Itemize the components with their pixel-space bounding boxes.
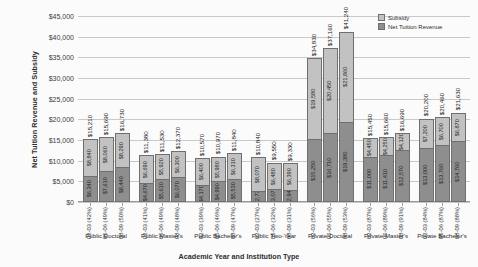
bar-stack[interactable]: $10,840$8,070$2,770 [251, 157, 266, 202]
bar-segment-net-tuition[interactable]: $2,940 [283, 190, 298, 202]
bar-total-label: $11,840 [231, 129, 237, 151]
bar-segment-subsidy[interactable]: $6,690 [139, 155, 154, 183]
bar-segment-subsidy[interactable]: $6,480 [267, 163, 282, 190]
bar-segment-subsidy[interactable]: $6,870 [451, 113, 466, 141]
bar-segment-net-tuition[interactable]: $2,770 [251, 191, 266, 202]
stacked-bar[interactable]: $15,690$8,060$7,610 [99, 16, 114, 202]
bar-stack[interactable]: $10,970$5,980$4,990 [211, 157, 226, 202]
bar-segment-net-tuition[interactable]: $4,990 [211, 181, 226, 202]
bar-total-label: $20,460 [439, 93, 445, 115]
bar-stack[interactable]: $20,200$7,200$13,000 [419, 119, 434, 202]
bar-segment-net-tuition[interactable]: $4,670 [139, 183, 154, 202]
bar-stack[interactable]: $10,570$6,400$4,170 [195, 158, 210, 202]
stacked-bar[interactable]: $21,630$6,870$14,760 [451, 16, 466, 202]
stacked-bar[interactable]: $34,830$19,580$15,250 [307, 16, 322, 202]
bar-segment-subsidy[interactable]: $8,060 [99, 137, 114, 170]
bar-stack[interactable]: $11,530$5,920$5,610 [155, 154, 170, 202]
bar-segment-net-tuition[interactable]: $6,070 [171, 177, 186, 202]
bar-segment-subsidy[interactable]: $5,920 [155, 154, 170, 178]
y-axis-tick-label: $10,000 [49, 157, 74, 164]
net-tuition-value-label: $13,000 [423, 165, 429, 185]
bar-segment-net-tuition[interactable]: $15,250 [307, 139, 322, 202]
stacked-bar[interactable]: $20,460$6,700$13,760 [435, 16, 450, 202]
bar-segment-net-tuition[interactable]: $5,530 [227, 179, 242, 202]
bar-stack[interactable]: $16,690$4,120$12,570 [395, 133, 410, 202]
bar-segment-subsidy[interactable]: $20,450 [323, 48, 338, 133]
bar-segment-subsidy[interactable]: $6,400 [195, 158, 210, 184]
stacked-bar[interactable]: $37,160$20,450$16,710 [323, 16, 338, 202]
bar-stack[interactable]: $11,840$6,310$5,530 [227, 153, 242, 202]
bar-stack[interactable]: $34,830$19,580$15,250 [307, 58, 322, 202]
subsidy-value-label: $6,700 [439, 123, 445, 140]
bar-segment-net-tuition[interactable]: $13,000 [419, 148, 434, 202]
bar-stack[interactable]: $37,160$20,450$16,710 [323, 48, 338, 202]
stacked-bar[interactable]: $16,730$8,290$8,440 [115, 16, 130, 202]
bar-stack[interactable]: $15,660$4,250$11,410 [379, 137, 394, 202]
stacked-bar[interactable]: $20,200$7,200$13,000 [419, 16, 434, 202]
bar-segment-subsidy[interactable]: $4,120 [395, 133, 410, 150]
bar-segment-net-tuition[interactable]: $5,610 [155, 179, 170, 202]
bar-segment-net-tuition[interactable]: $14,760 [451, 141, 466, 202]
bar-segment-subsidy[interactable]: $6,700 [435, 117, 450, 145]
stacked-bar[interactable]: $10,840$8,070$2,770 [251, 16, 266, 202]
bar-segment-net-tuition[interactable]: $13,760 [435, 145, 450, 202]
stacked-bar[interactable]: $16,690$4,120$12,570 [395, 16, 410, 202]
bar-stack[interactable]: $16,730$8,290$8,440 [115, 133, 130, 202]
bar-stack[interactable]: $15,450$4,450$11,000 [363, 138, 378, 202]
bar-stack[interactable]: $41,240$21,860$19,380 [339, 32, 354, 202]
chart-legend: Subsidy Net Tuition Revenue [378, 14, 442, 32]
bar-segment-net-tuition[interactable]: $7,610 [99, 171, 114, 202]
bar-segment-net-tuition[interactable]: $3,070 [267, 189, 282, 202]
tick-mark-icon [90, 203, 91, 206]
stacked-bar[interactable]: $9,330$6,390$2,940 [283, 16, 298, 202]
bar-segment-subsidy[interactable]: $6,390 [283, 163, 298, 189]
bar-stack[interactable]: $12,370$6,300$6,070 [171, 151, 186, 202]
bar-segment-subsidy[interactable]: $6,310 [227, 153, 242, 179]
category-label: Private Master's [358, 232, 414, 239]
bar-segment-subsidy[interactable]: $8,840 [83, 139, 98, 176]
stacked-bar[interactable]: $10,570$6,400$4,170 [195, 16, 210, 202]
bar-set: $10,570$6,400$4,170$10,970$5,980$4,990$1… [195, 16, 242, 202]
stacked-bar[interactable]: $15,210$8,840$6,340 [83, 16, 98, 202]
bar-segment-subsidy[interactable]: $6,300 [171, 151, 186, 177]
bar-stack[interactable]: $15,210$8,840$6,340 [83, 139, 98, 202]
stacked-bar[interactable]: $41,240$21,860$19,380 [339, 16, 354, 202]
stacked-bar[interactable]: $12,370$6,300$6,070 [171, 16, 186, 202]
subsidy-value-label: $8,290 [119, 142, 125, 159]
bar-segment-subsidy[interactable]: $21,860 [339, 32, 354, 122]
bar-segment-subsidy[interactable]: $8,070 [251, 157, 266, 190]
bar-segment-subsidy[interactable]: $19,580 [307, 58, 322, 139]
stacked-bar[interactable]: $11,380$6,690$4,670 [139, 16, 154, 202]
bar-segment-net-tuition[interactable]: $19,380 [339, 122, 354, 202]
stacked-bar[interactable]: $11,530$5,920$5,610 [155, 16, 170, 202]
bar-segment-subsidy[interactable]: $4,450 [363, 138, 378, 156]
bar-total-label: $9,330 [287, 143, 293, 162]
stacked-bar[interactable]: $15,660$4,250$11,410 [379, 16, 394, 202]
net-tuition-value-label: $8,440 [119, 176, 125, 193]
bar-segment-subsidy[interactable]: $5,980 [211, 157, 226, 182]
bar-segment-net-tuition[interactable]: $4,170 [195, 185, 210, 202]
bar-stack[interactable]: $20,460$6,700$13,760 [435, 117, 450, 202]
bar-segment-net-tuition[interactable]: $6,340 [83, 176, 98, 202]
bar-segment-subsidy[interactable]: $4,250 [379, 137, 394, 155]
plot-area: $45,000$40,000$35,000$30,000$25,000$20,0… [78, 16, 470, 202]
bar-segment-net-tuition[interactable]: $12,570 [395, 150, 410, 202]
bar-segment-subsidy[interactable]: $8,290 [115, 133, 130, 167]
tick-mark-icon [178, 203, 179, 206]
bar-segment-net-tuition[interactable]: $11,000 [363, 157, 378, 202]
bar-stack[interactable]: $15,690$8,060$7,610 [99, 137, 114, 202]
bar-segment-net-tuition[interactable]: $11,410 [379, 155, 394, 202]
bar-segment-subsidy[interactable]: $7,200 [419, 119, 434, 149]
stacked-bar[interactable]: $10,970$5,980$4,990 [211, 16, 226, 202]
bar-segment-net-tuition[interactable]: $16,710 [323, 133, 338, 202]
bar-stack[interactable]: $9,550$6,480$3,070 [267, 163, 282, 202]
bar-stack[interactable]: $21,630$6,870$14,760 [451, 113, 466, 202]
bar-segment-net-tuition[interactable]: $8,440 [115, 167, 130, 202]
net-tuition-value-label: $12,570 [399, 166, 405, 186]
stacked-bar[interactable]: $11,840$6,310$5,530 [227, 16, 242, 202]
stacked-bar[interactable]: $9,550$6,480$3,070 [267, 16, 282, 202]
stacked-bar[interactable]: $15,450$4,450$11,000 [363, 16, 378, 202]
tick-mark-icon [218, 203, 219, 206]
bar-stack[interactable]: $11,380$6,690$4,670 [139, 155, 154, 202]
bar-stack[interactable]: $9,330$6,390$2,940 [283, 163, 298, 202]
